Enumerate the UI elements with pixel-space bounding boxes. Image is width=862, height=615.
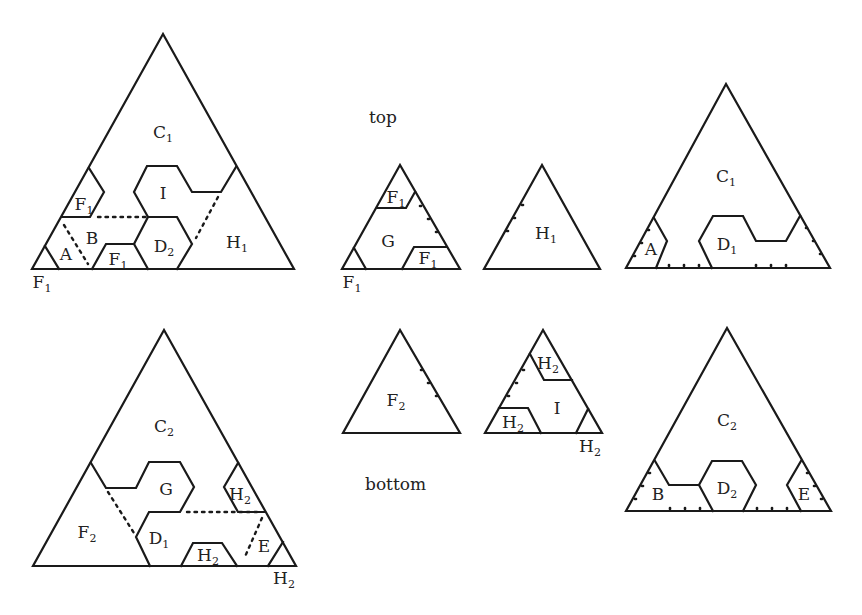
label-d1: D1 [717,234,738,257]
corner-region-boundary [354,248,366,269]
caption-top: top [369,107,397,127]
label-corner-h2: H2 [579,436,601,459]
label-f1: F1 [419,248,438,271]
label-b: B [86,228,99,248]
label-c2: C2 [717,410,737,433]
triangle-outline [32,34,294,269]
caption-bottom: bottom [365,474,426,494]
triangle-outline [342,165,460,269]
label-c2: C2 [154,416,174,439]
label-corner-f1: F1 [33,272,52,295]
triangle-outline [484,165,600,269]
triangulation-diagram: C1 I F1 B A F1 D2 H1 F1 top F1 G F1 F1 H… [0,0,862,615]
label-h2: H2 [502,412,524,435]
dotted-edge [108,492,134,533]
triangle-top-left: C1 I F1 B A F1 D2 H1 F1 [32,34,294,295]
label-h2: H2 [537,353,559,376]
label-g: G [381,231,395,251]
label-c1: C1 [716,166,736,189]
dotted-edge [196,197,218,238]
label-e: E [258,536,270,556]
label-c1: C1 [153,122,173,145]
region-d1-boundary [699,216,800,268]
label-b: B [652,484,665,504]
label-d1: D1 [149,528,170,551]
region-b-d2-boundary [655,461,756,511]
triangle-top-right: C1 A D1 [626,84,830,268]
label-h2: H2 [229,484,251,507]
region-d2-boundary [699,485,713,511]
triangle-top-small-g: F1 G F1 F1 [342,165,460,295]
corner-region-boundary [45,246,59,269]
triangle-bottom-small-i: H2 I H2 H2 [485,330,602,459]
label-i: I [554,398,561,418]
label-g: G [159,479,173,499]
label-d2: D2 [717,478,738,501]
triangle-bottom-right: C2 B D2 E [626,328,831,511]
region-d2-boundary [134,217,148,269]
corner-region-boundary [576,409,588,433]
region-g-d1-boundary [91,462,194,566]
triangle-outline [33,330,296,566]
region-i-boundary [134,166,236,269]
triangle-top-small-h1: H1 [484,165,600,269]
label-f1: F1 [109,249,128,272]
label-a: A [59,244,73,264]
triangle-bottom-small-f2: F2 [343,330,460,433]
label-corner-f1: F1 [343,272,362,295]
corner-region-boundary [268,542,283,566]
label-f1: F1 [75,194,94,217]
label-e: E [798,484,810,504]
label-d2: D2 [154,236,175,259]
label-h1: H1 [535,223,557,246]
label-f2: F2 [78,522,97,545]
triangle-bottom-left: C2 G H2 F2 D1 H2 E H2 [33,330,296,591]
label-h1: H1 [226,232,248,255]
label-h2: H2 [197,545,219,568]
label-corner-h2: H2 [273,568,295,591]
label-i: I [160,183,167,203]
label-f1: F1 [387,187,406,210]
triangle-outline [343,330,460,433]
label-a: A [644,239,658,259]
label-f2: F2 [387,390,406,413]
